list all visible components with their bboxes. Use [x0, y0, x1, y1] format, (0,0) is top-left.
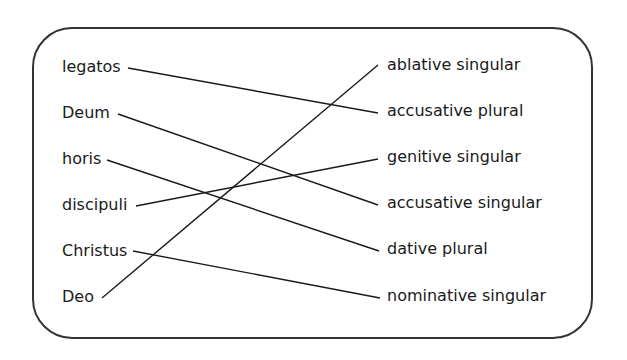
- right-term-accusative-plural: accusative plural: [387, 101, 523, 121]
- right-term-accusative-singular: accusative singular: [387, 193, 542, 213]
- line-christus-nominative-singular: [133, 251, 380, 298]
- left-term-horis: horis: [62, 149, 101, 169]
- right-term-nominative-singular: nominative singular: [387, 286, 546, 306]
- line-legatos-accusative-plural: [128, 68, 378, 113]
- line-deum-accusative-singular: [118, 114, 378, 205]
- left-term-christus: Christus: [62, 241, 127, 261]
- left-term-deo: Deo: [62, 287, 94, 307]
- left-term-legatos: legatos: [62, 57, 121, 77]
- line-horis-dative-plural: [107, 160, 379, 251]
- connector-lines: [0, 0, 627, 360]
- right-term-ablative-singular: ablative singular: [387, 55, 520, 75]
- right-term-dative-plural: dative plural: [387, 239, 488, 259]
- right-term-genitive-singular: genitive singular: [387, 147, 521, 167]
- left-term-discipuli: discipuli: [62, 195, 127, 215]
- left-term-deum: Deum: [62, 103, 110, 123]
- line-deo-ablative-singular: [102, 65, 378, 298]
